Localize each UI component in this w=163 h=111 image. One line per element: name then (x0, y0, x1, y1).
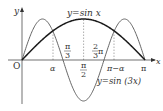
label-sin-x: y=sin x (66, 8, 101, 18)
tick-pi-over-2-num: π (81, 61, 86, 70)
origin-label: O (13, 61, 20, 71)
y-axis-arrow-icon (20, 7, 24, 12)
tick-pi-minus-alpha: π−α (106, 64, 125, 73)
tick-alpha: α (50, 64, 56, 73)
x-axis-label: x (156, 57, 161, 66)
y-axis-label: y (13, 6, 20, 16)
tick-pi: π (141, 64, 146, 73)
graph: y x O y=sin x y=sin (3x) α π 3 π 2 2 3 π… (0, 0, 163, 111)
tick-pi-over-3-num: π (65, 42, 70, 51)
tick-pi-over-2-den: 2 (81, 70, 86, 79)
label-sin-3x: y=sin (3x) (96, 76, 141, 86)
tick-pi-over-3-den: 3 (65, 51, 70, 60)
tick-two-thirds-pi: π (98, 47, 103, 56)
